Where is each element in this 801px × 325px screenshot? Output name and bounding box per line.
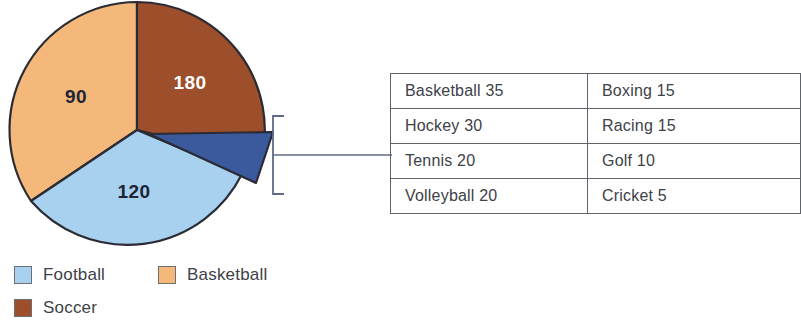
legend-label-soccer: Soccer — [43, 298, 97, 318]
table-cell-volleyball: Volleyball 20 — [391, 179, 588, 214]
table-cell-cricket: Cricket 5 — [588, 179, 801, 214]
legend-item-football[interactable]: Football — [14, 265, 158, 285]
legend-swatch-soccer-icon — [14, 299, 32, 317]
legend-item-basketball[interactable]: Basketball — [158, 265, 267, 285]
legend-swatch-football-icon — [14, 266, 32, 284]
table-cell-racing: Racing 15 — [588, 109, 801, 144]
table-row: Volleyball 20 Cricket 5 — [391, 179, 801, 214]
legend-row-1: Football Basketball — [14, 258, 354, 291]
table-row: Tennis 20 Golf 10 — [391, 144, 801, 179]
legend-label-basketball: Basketball — [187, 265, 267, 285]
legend-item-soccer[interactable]: Soccer — [14, 298, 158, 318]
table-cell-golf: Golf 10 — [588, 144, 801, 179]
callout-connector — [255, 110, 405, 210]
pie-label-football: 120 — [117, 181, 150, 202]
table-row: Hockey 30 Racing 15 — [391, 109, 801, 144]
others-breakdown-table: Basketball 35 Boxing 15 Hockey 30 Racing… — [390, 73, 801, 214]
legend-swatch-basketball-icon — [158, 266, 176, 284]
pie-label-basketball: 90 — [65, 86, 87, 107]
chart-legend: Football Basketball Soccer — [14, 258, 354, 324]
legend-row-2: Soccer — [14, 291, 354, 324]
table-row: Basketball 35 Boxing 15 — [391, 74, 801, 109]
table-cell-hockey: Hockey 30 — [391, 109, 588, 144]
table-cell-boxing: Boxing 15 — [588, 74, 801, 109]
table-cell-basketball: Basketball 35 — [391, 74, 588, 109]
legend-label-football: Football — [43, 265, 105, 285]
table-cell-tennis: Tennis 20 — [391, 144, 588, 179]
pie-label-soccer: 180 — [173, 72, 206, 93]
